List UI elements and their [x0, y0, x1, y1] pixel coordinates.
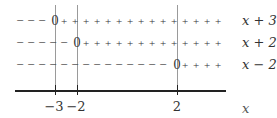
number-line-axis: [15, 90, 226, 92]
plus-sign: +: [204, 35, 210, 51]
minus-sign: −: [27, 57, 34, 73]
plus-sign: +: [215, 57, 221, 73]
minus-sign: −: [49, 57, 56, 73]
minus-sign: −: [16, 13, 23, 29]
plus-sign: +: [204, 57, 210, 73]
plus-sign: +: [61, 13, 67, 29]
plus-sign: +: [138, 13, 144, 29]
factor-label-x-plus-3: x + 3: [242, 13, 277, 29]
tick-2: [177, 85, 178, 95]
plus-sign: +: [72, 13, 78, 29]
plus-sign: +: [149, 13, 155, 29]
tick-label-2: 2: [173, 99, 181, 114]
minus-sign: −: [38, 57, 45, 73]
tick-neg2: [77, 85, 78, 95]
plus-sign: +: [215, 35, 221, 51]
plus-sign: +: [182, 57, 188, 73]
plus-sign: +: [160, 13, 166, 29]
plus-sign: +: [83, 13, 89, 29]
plus-sign: +: [83, 35, 89, 51]
minus-sign: −: [38, 13, 45, 29]
minus-sign: −: [16, 35, 23, 51]
plus-sign: +: [215, 13, 221, 29]
plus-sign: +: [94, 35, 100, 51]
tick-label-neg2: −2: [66, 99, 85, 114]
minus-sign: −: [115, 57, 122, 73]
factor-label-x-plus-2: x + 2: [242, 35, 277, 51]
minus-sign: −: [27, 35, 34, 51]
plus-sign: +: [182, 35, 188, 51]
minus-sign: −: [60, 57, 67, 73]
plus-sign: +: [182, 13, 188, 29]
plus-sign: +: [94, 13, 100, 29]
minus-sign: −: [60, 35, 67, 51]
plus-sign: +: [116, 35, 122, 51]
plus-sign: +: [116, 13, 122, 29]
plus-sign: +: [160, 35, 166, 51]
plus-sign: +: [193, 57, 199, 73]
minus-sign: −: [93, 57, 100, 73]
critical-line-2: [177, 5, 178, 93]
plus-sign: +: [149, 35, 155, 51]
plus-sign: +: [204, 13, 210, 29]
minus-sign: −: [27, 13, 34, 29]
plus-sign: +: [193, 35, 199, 51]
factor-label-x-minus-2: x − 2: [242, 57, 277, 73]
axis-variable-label: x: [242, 101, 249, 116]
plus-sign: +: [171, 13, 177, 29]
minus-sign: −: [49, 35, 56, 51]
plus-sign: +: [127, 35, 133, 51]
zero-marker: 0: [174, 57, 181, 73]
zero-marker: 0: [52, 13, 59, 29]
minus-sign: −: [38, 35, 45, 51]
minus-sign: −: [104, 57, 111, 73]
minus-sign: −: [126, 57, 133, 73]
minus-sign: −: [71, 57, 78, 73]
minus-sign: −: [82, 57, 89, 73]
plus-sign: +: [105, 13, 111, 29]
plus-sign: +: [171, 35, 177, 51]
minus-sign: −: [137, 57, 144, 73]
plus-sign: +: [193, 13, 199, 29]
zero-marker: 0: [74, 35, 81, 51]
minus-sign: −: [148, 57, 155, 73]
tick-label-neg3: −3: [44, 99, 63, 114]
tick-neg3: [55, 85, 56, 95]
minus-sign: −: [16, 57, 23, 73]
plus-sign: +: [138, 35, 144, 51]
plus-sign: +: [105, 35, 111, 51]
plus-sign: +: [127, 13, 133, 29]
minus-sign: −: [159, 57, 166, 73]
